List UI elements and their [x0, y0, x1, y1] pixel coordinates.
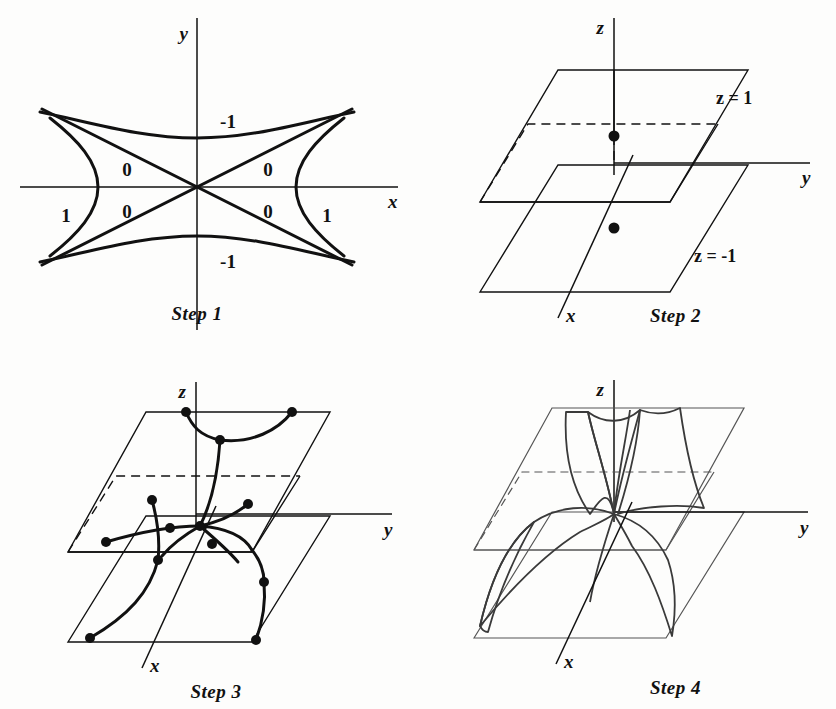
y-axis-label: y	[178, 23, 189, 44]
panel-step-3: z y x Step 3	[0, 354, 418, 709]
marker-dot	[85, 633, 95, 643]
plane-z-minus-one	[68, 516, 330, 642]
step-4-caption: Step 4	[650, 677, 701, 698]
level-curve-lower-mid-branch	[200, 526, 238, 562]
marker-dot-origin	[195, 521, 205, 531]
marker-dot	[165, 523, 175, 533]
marker-dot	[147, 495, 157, 505]
surface-lobe-right	[614, 514, 675, 636]
level-curve-upper-left-arc	[186, 412, 220, 440]
level-label-lower-right: 0	[263, 201, 273, 222]
marker-dot-lower	[609, 223, 620, 234]
x-axis-line	[556, 502, 632, 664]
level-curve-lower-left-descend	[90, 560, 158, 638]
level-label-bottom: -1	[220, 251, 236, 272]
panel-step-1: y x -1 -1 0 0 0 0 1 1 Step 1	[0, 0, 418, 355]
marker-dot	[287, 407, 297, 417]
level-label-lower-left: 0	[122, 201, 132, 222]
marker-dot-upper	[609, 131, 620, 142]
panel-step-2: z y x z = 1 z = -1 Step 2	[418, 0, 836, 355]
y-axis-label: y	[798, 517, 809, 538]
marker-dot	[215, 435, 225, 445]
level-curve-upper-right-arc	[220, 412, 292, 441]
surface-sheet-back-left	[566, 412, 614, 514]
surface-sheet-back-right	[618, 408, 704, 514]
y-axis-label: y	[800, 167, 811, 188]
marker-dot	[207, 539, 217, 549]
level-label-top: -1	[220, 111, 236, 132]
level-label-upper-right: 0	[263, 159, 273, 180]
z-axis-label: z	[596, 379, 605, 400]
level-label-upper-left: 0	[122, 159, 132, 180]
marker-dot	[259, 577, 269, 587]
level-label-far-left: 1	[61, 205, 71, 226]
z-axis-label: z	[178, 381, 187, 402]
surface-fold-front	[590, 514, 614, 602]
x-axis-label: x	[565, 305, 576, 326]
plane-label-z-equals-minus-one: z = -1	[694, 246, 736, 266]
level-curve-upper-descending	[200, 440, 220, 526]
plane-label-z-equals-one: z = 1	[716, 88, 752, 108]
figure-sheet: y x -1 -1 0 0 0 0 1 1 Step 1	[0, 0, 836, 709]
level-label-far-right: 1	[322, 205, 332, 226]
step-1-caption: Step 1	[171, 303, 222, 324]
x-axis-label: x	[563, 651, 574, 672]
marker-dot	[251, 635, 261, 645]
panel-step-4: z y x Step 4	[418, 354, 836, 709]
marker-dot	[153, 555, 163, 565]
marker-dot	[243, 499, 253, 509]
plane-z-one	[68, 412, 330, 552]
marker-dot	[101, 537, 111, 547]
x-axis-label: x	[387, 191, 398, 212]
marker-dot	[181, 407, 191, 417]
step-3-caption: Step 3	[190, 681, 241, 702]
x-axis-label: x	[149, 655, 160, 676]
level-curve-lower-right-descend	[256, 582, 265, 640]
level-curve-lower-right-join	[252, 550, 264, 582]
z-axis-label: z	[596, 17, 605, 38]
x-axis-line	[558, 155, 633, 318]
step-2-caption: Step 2	[650, 305, 701, 326]
y-axis-label: y	[382, 519, 393, 540]
